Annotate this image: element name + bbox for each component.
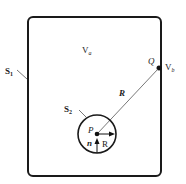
- radius-label: R: [102, 139, 108, 149]
- region-vb-label: Vb: [165, 62, 175, 73]
- point-q-label: Q: [148, 56, 155, 66]
- s2-leader-line: [79, 110, 86, 117]
- normal-label: n: [87, 138, 92, 148]
- s1-leader-line: [17, 70, 27, 79]
- vector-r-line: [97, 69, 158, 134]
- vector-r-label: R: [118, 88, 125, 98]
- point-p-label: P: [87, 125, 94, 135]
- normal-arrowhead-icon: [95, 138, 100, 144]
- s2-label: S2: [64, 104, 72, 115]
- diagram: S1 Va Vb Q R S2 P R n: [0, 0, 186, 184]
- s1-label: S1: [5, 66, 13, 77]
- radius-arrowhead-icon: [109, 132, 115, 137]
- region-va-label: Va: [82, 45, 92, 56]
